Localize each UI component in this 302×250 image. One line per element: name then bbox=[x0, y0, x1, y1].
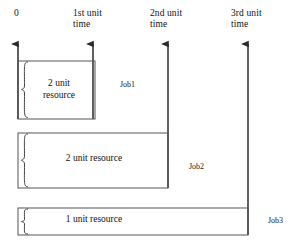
job3-name-label: Job3 bbox=[268, 216, 283, 226]
time-axis-arrows bbox=[18, 44, 248, 235]
job2-resource-label: 2 unit resource bbox=[34, 153, 154, 165]
job3-brace-icon bbox=[22, 209, 29, 234]
job2-name-label: Job2 bbox=[189, 162, 204, 172]
job2-brace-icon bbox=[22, 134, 29, 187]
tick-label-1st-unit-time: 1st unit time bbox=[73, 8, 102, 30]
tick-label-3rd-unit-time: 3rd unit time bbox=[231, 8, 262, 30]
job1-resource-label: 2 unit resource bbox=[28, 78, 90, 101]
job-timeline-diagram bbox=[0, 0, 302, 250]
job3-resource-label: 1 unit resource bbox=[34, 214, 154, 226]
tick-label-0: 0 bbox=[14, 8, 19, 19]
job1-name-label: Job1 bbox=[120, 80, 135, 90]
tick-label-2nd-unit-time: 2nd unit time bbox=[150, 8, 182, 30]
